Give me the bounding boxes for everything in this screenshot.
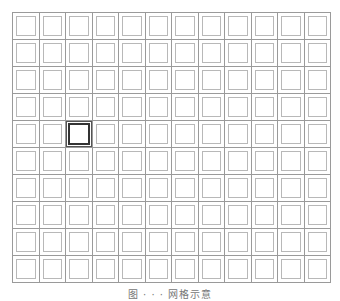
grid-cell (252, 40, 279, 67)
cell-square (175, 205, 195, 225)
grid-cell (225, 256, 252, 283)
cell-square (228, 178, 248, 198)
cell-square (96, 124, 116, 144)
grid-cell (40, 13, 67, 40)
grid-cell (305, 94, 332, 121)
cell-square (255, 70, 275, 90)
grid-cell (252, 67, 279, 94)
grid-cell (278, 202, 305, 229)
grid-cell (93, 229, 120, 256)
grid-cell (119, 229, 146, 256)
grid-cell (93, 94, 120, 121)
cell-square (255, 259, 275, 279)
cell-square (281, 16, 301, 36)
cell-square (16, 178, 36, 198)
grid-cell (66, 148, 93, 175)
grid-cell (199, 229, 226, 256)
cell-square (43, 70, 63, 90)
cell-square (228, 232, 248, 252)
cell-square (96, 43, 116, 63)
cell-square (255, 43, 275, 63)
cell-square (228, 43, 248, 63)
cell-square (202, 259, 222, 279)
grid-cell (172, 175, 199, 202)
selected-grid-cell (66, 121, 93, 148)
grid-cell (305, 121, 332, 148)
grid-cell (146, 94, 173, 121)
grid-cell (93, 40, 120, 67)
cell-square (149, 259, 169, 279)
grid-cell (146, 40, 173, 67)
grid-cell (172, 256, 199, 283)
cell-square (228, 205, 248, 225)
grid-cell (225, 148, 252, 175)
cell-square (69, 16, 89, 36)
cell-square (122, 43, 142, 63)
grid-cell (305, 13, 332, 40)
cell-square (228, 124, 248, 144)
cell-square (122, 124, 142, 144)
grid-cell (66, 94, 93, 121)
grid-cell (172, 121, 199, 148)
grid-cell (66, 202, 93, 229)
grid-cell (40, 202, 67, 229)
grid-cell (225, 67, 252, 94)
grid-cell (172, 13, 199, 40)
grid-cell (278, 256, 305, 283)
cell-square (149, 178, 169, 198)
grid-cell (305, 67, 332, 94)
cell-square (281, 178, 301, 198)
grid-cell (119, 148, 146, 175)
grid-cell (40, 175, 67, 202)
grid-cell (252, 94, 279, 121)
grid-cell (199, 121, 226, 148)
grid-cell (199, 202, 226, 229)
cell-square (175, 16, 195, 36)
grid-cell (278, 229, 305, 256)
grid-cell (305, 148, 332, 175)
cell-square (16, 124, 36, 144)
grid-cell (278, 13, 305, 40)
cell-square (202, 97, 222, 117)
cell-square (308, 124, 328, 144)
cell-square (149, 232, 169, 252)
cell-square (96, 178, 116, 198)
cell-square (149, 151, 169, 171)
grid-cell (146, 256, 173, 283)
cell-square (16, 232, 36, 252)
grid-cell (172, 40, 199, 67)
cell-square (308, 43, 328, 63)
cell-square (122, 16, 142, 36)
grid-cell (278, 67, 305, 94)
cell-square (281, 43, 301, 63)
grid-cell (93, 175, 120, 202)
grid-cell (172, 229, 199, 256)
grid-cell (278, 148, 305, 175)
cell-square (175, 232, 195, 252)
grid-cell (119, 175, 146, 202)
grid-cell (40, 229, 67, 256)
cell-square (43, 205, 63, 225)
grid-cell (305, 229, 332, 256)
grid-cell (146, 175, 173, 202)
grid-cell (119, 256, 146, 283)
grid-cell (199, 13, 226, 40)
grid-cell (199, 40, 226, 67)
grid-cell (13, 13, 40, 40)
cell-square (69, 43, 89, 63)
cell-square (69, 97, 89, 117)
cell-square (228, 259, 248, 279)
grid-cell (40, 94, 67, 121)
cell-square (255, 151, 275, 171)
cell-square (175, 151, 195, 171)
cell-square (228, 97, 248, 117)
cell-square (96, 151, 116, 171)
cell-square (308, 16, 328, 36)
cell-square (255, 124, 275, 144)
cell-square (149, 43, 169, 63)
cell-square (175, 43, 195, 63)
cell-square (202, 232, 222, 252)
grid-cell (119, 67, 146, 94)
grid-cell (305, 256, 332, 283)
cell-square (69, 70, 89, 90)
